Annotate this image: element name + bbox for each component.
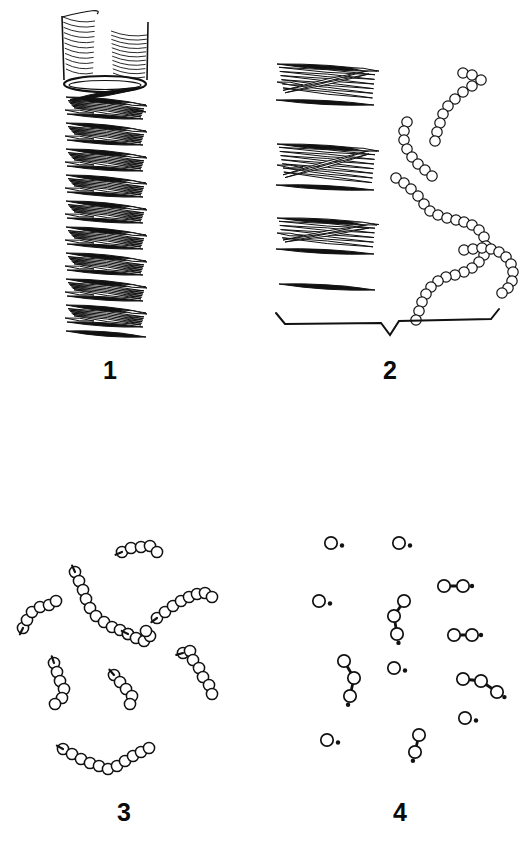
trimer-bead [391,628,403,640]
monomer-circle [325,537,337,549]
monomer-dot [336,740,340,744]
dimer-bead [466,629,478,641]
panel-label-1: 1 [103,358,117,383]
monomer-dot [403,668,407,672]
panel-4-monomers [313,537,507,763]
panel-label-2: 2 [383,358,397,383]
dimer-bead [448,629,460,641]
monomer-dot [340,543,344,547]
panel-label-3: 3 [117,800,131,825]
monomer-circle [313,595,325,607]
chain-v-top-right-bead [430,136,440,146]
chain-3-right-lower-bead [206,688,217,699]
dimer-bead [409,746,421,758]
cylinder-mouth-back [62,11,98,17]
hatch-line-left [63,22,95,27]
monomer-circle [321,734,333,746]
dimer-dot [479,633,483,637]
monomer-dot [408,543,412,547]
trimer-bead [348,672,360,684]
panel-3-short-chains [17,540,217,774]
hatch-line-left [66,69,93,74]
brace-path [276,309,499,335]
figure-root: 1 2 3 4 [0,0,529,842]
monomer-circle [459,712,471,724]
chain-3-center-right-bead [140,625,151,636]
monomer-dot [328,601,332,605]
trimer-bead [338,655,350,667]
chain-3-right-upper-bead [206,591,217,602]
hatch-line-left [66,64,94,69]
dimer-bead [413,729,425,741]
trimer-dot [396,641,400,645]
hatch-line-left [64,33,95,38]
trimer-dot [502,695,506,699]
panel-2-bead-chains [391,68,518,325]
hatch-line-left [65,43,95,48]
chain-3-top-center-bead [151,546,162,557]
trimer-bead [475,675,487,687]
hatch-line-left [65,48,94,53]
panel-1-helical-cylinder [62,11,148,338]
trimer-dot [346,703,350,707]
cylinder-wall-left [62,16,64,80]
hatch-line-left [63,17,95,22]
trimer-bead [491,686,503,698]
chain-3-left-lower-bead [49,698,60,709]
panel-2-rod-bundles [276,64,379,290]
trimer-bead [457,673,469,685]
dimer-bead [438,580,450,592]
trimer-bead [398,595,410,607]
hatch-line-right [111,31,147,36]
dimer-dot [470,584,474,588]
chain-3-bottom-arc-bead [143,742,154,753]
dimer-bead [457,580,469,592]
chain-short-left-bead [427,171,437,181]
hatch-line-left [65,53,94,58]
cylinder-wall-right [147,22,148,80]
chain-3-mid-lower-bead [124,698,135,709]
hatch-line-left [64,27,95,32]
monomer-circle [393,537,405,549]
chain-v-top-right-bead [467,81,477,91]
panel-label-4: 4 [393,800,407,825]
chain-short-bottom-right-bead [497,288,507,298]
dimer-dot [411,759,415,763]
panel-2-brace [276,309,499,335]
monomer-dot [474,718,478,722]
trimer-bead [344,690,356,702]
figure-artwork [0,0,529,842]
trimer-bead [388,610,400,622]
chain-v-top-right-bead [476,75,486,85]
chain-3-upper-left-bead [50,595,61,606]
monomer-circle [388,662,400,674]
hatch-line-left [64,38,94,43]
hatch-line-left [65,59,93,64]
